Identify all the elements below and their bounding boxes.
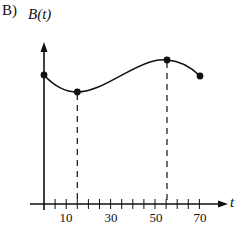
point-start [41, 72, 48, 79]
x-axis-label: t [230, 194, 234, 211]
tick-label-10: 10 [60, 210, 73, 226]
tick-label-70: 70 [194, 210, 207, 226]
tick-label-30: 30 [105, 210, 118, 226]
chart-canvas [0, 0, 242, 239]
curve-B-of-t [44, 60, 200, 92]
tick-label-50: 50 [150, 210, 163, 226]
point-maximum [164, 57, 171, 64]
point-minimum [74, 89, 81, 96]
x-axis-arrow-icon [218, 201, 228, 208]
point-end [197, 73, 204, 80]
y-axis-arrow-icon [41, 42, 48, 52]
